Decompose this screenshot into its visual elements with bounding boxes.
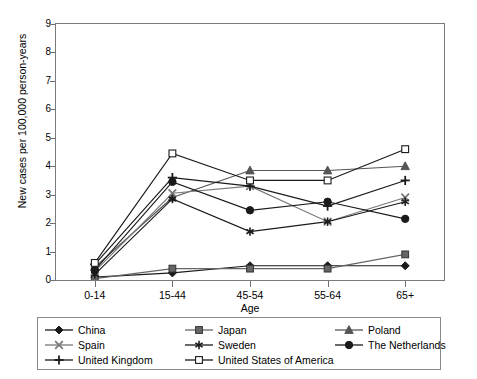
legend-marker-asterisk-icon (184, 338, 214, 352)
y-tick-label: 1 (31, 247, 51, 257)
data-point-filled-circle (402, 215, 409, 222)
data-point-filled-diamond (55, 326, 63, 334)
legend-item-japan[interactable]: Japan (184, 323, 247, 337)
x-tick-mark (250, 281, 251, 287)
data-point-filled-circle (246, 207, 253, 214)
chart-figure: 0123456789 New cases per 100,000 person-… (0, 0, 477, 379)
y-tick-label: 6 (31, 104, 51, 114)
x-tick-mark (328, 281, 329, 287)
data-point-open-square (196, 357, 203, 364)
legend-item-the-netherlands[interactable]: The Netherlands (334, 338, 446, 352)
data-point-filled-triangle (401, 162, 409, 170)
legend-label: United States of America (218, 353, 334, 367)
x-axis-tick-labels: 0-1415-4445-5455-6465+ (55, 289, 445, 303)
legend-label: The Netherlands (368, 338, 446, 352)
legend-marker-filled-triangle-icon (334, 323, 364, 337)
data-point-filled-square (324, 265, 331, 272)
x-tick-label: 0-14 (65, 289, 125, 301)
x-tick-label: 45-54 (220, 289, 280, 301)
legend-items: ChinaJapanPolandSpainSwedenThe Netherlan… (44, 323, 436, 366)
x-tick-label: 65+ (375, 289, 435, 301)
y-axis-title: New cases per 100,000 person-years (16, 0, 28, 250)
legend-marker-filled-circle-icon (334, 338, 364, 352)
legend-item-united-states-of-america[interactable]: United States of America (184, 353, 334, 367)
data-point-open-square (402, 146, 409, 153)
series-the-netherlands (91, 178, 409, 274)
data-point-filled-square (169, 265, 176, 272)
data-point-filled-square (402, 251, 409, 258)
data-point-filled-square (196, 327, 203, 334)
series-united-states-of-america (91, 146, 408, 267)
y-tick-label: 2 (31, 218, 51, 228)
data-point-plus (401, 176, 410, 185)
x-axis-tick-marks (55, 281, 445, 288)
legend-item-united-kingdom[interactable]: United Kingdom (44, 353, 153, 367)
y-tick-label: 0 (31, 275, 51, 285)
data-point-plus (54, 355, 63, 364)
data-point-open-square (91, 260, 98, 267)
plot-area (55, 23, 445, 281)
x-tick-label: 55-64 (298, 289, 358, 301)
legend-marker-filled-diamond-icon (44, 323, 74, 337)
legend-item-china[interactable]: China (44, 323, 105, 337)
legend-label: China (78, 323, 105, 337)
legend-marker-x-cross-icon (44, 338, 74, 352)
legend-label: Japan (218, 323, 247, 337)
data-point-open-square (247, 177, 254, 184)
legend-marker-open-square-icon (184, 353, 214, 367)
y-tick-label: 9 (31, 19, 51, 29)
legend-item-sweden[interactable]: Sweden (184, 338, 256, 352)
x-tick-mark (405, 281, 406, 287)
chart-legend: ChinaJapanPolandSpainSwedenThe Netherlan… (37, 317, 441, 370)
legend-label: Sweden (218, 338, 256, 352)
legend-label: Poland (368, 323, 401, 337)
x-axis-title: Age (55, 302, 445, 314)
data-point-filled-diamond (401, 262, 409, 270)
legend-marker-filled-square-icon (184, 323, 214, 337)
y-axis-tick-labels: 0123456789 (27, 23, 51, 281)
legend-item-spain[interactable]: Spain (44, 338, 105, 352)
y-tick-label: 4 (31, 161, 51, 171)
data-point-filled-circle (345, 341, 352, 348)
x-tick-label: 15-44 (142, 289, 202, 301)
data-point-open-square (169, 150, 176, 157)
legend-item-poland[interactable]: Poland (334, 323, 401, 337)
y-tick-label: 5 (31, 133, 51, 143)
legend-label: Spain (78, 338, 105, 352)
y-tick-label: 7 (31, 76, 51, 86)
y-tick-label: 8 (31, 47, 51, 57)
chart-lines (56, 24, 444, 280)
x-tick-mark (172, 281, 173, 287)
legend-marker-plus-icon (44, 353, 74, 367)
y-tick-label: 3 (31, 190, 51, 200)
legend-label: United Kingdom (78, 353, 153, 367)
x-tick-mark (95, 281, 96, 287)
data-point-filled-square (247, 265, 254, 272)
data-point-open-square (324, 177, 331, 184)
